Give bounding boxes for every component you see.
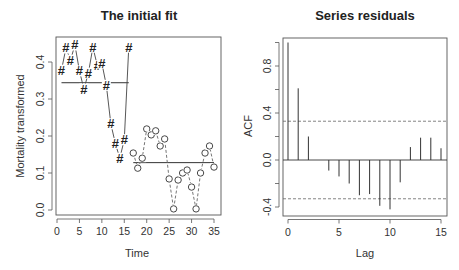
panel-series-residuals: Series residuals 051015 -0.40.00.40.8 La…: [242, 8, 447, 259]
x-axis-right: 051015: [285, 220, 447, 238]
x-tick-label: 5: [336, 226, 342, 238]
data-point-hash: #: [89, 40, 97, 55]
y-tick-label: 0.4: [261, 106, 273, 121]
data-point-hash: #: [76, 63, 84, 78]
y-tick-label: 0.0: [34, 203, 46, 218]
series-line: [133, 129, 214, 209]
data-point-hash: #: [67, 53, 75, 68]
data-point-hash: #: [98, 56, 106, 71]
y-axis-left: 0.00.10.20.30.4: [34, 55, 52, 218]
y-tick-label: 0.0: [261, 153, 273, 168]
x-tick-label: 20: [141, 225, 153, 237]
y-tick-label: 0.2: [34, 129, 46, 144]
chart-title-right: Series residuals: [315, 8, 415, 23]
data-point-hash: #: [116, 151, 124, 166]
y-tick-label: 0.4: [34, 55, 46, 70]
data-point-hash: #: [125, 40, 133, 55]
figure: The initial fit 05101520253035 0.00.10.2…: [0, 0, 459, 270]
data-point-hash: #: [80, 82, 88, 97]
x-tick-label: 25: [163, 225, 175, 237]
data-series: ################: [57, 37, 218, 212]
y-tick-label: 0.8: [261, 59, 273, 74]
chart-title-left: The initial fit: [101, 8, 178, 23]
data-point-hash: #: [107, 116, 115, 131]
x-tick-label: 15: [118, 225, 130, 237]
data-point-hash: #: [58, 63, 66, 78]
x-axis-left: 05101520253035: [54, 219, 220, 237]
data-point-hash: #: [71, 37, 79, 52]
x-axis-label-right: Lag: [356, 247, 374, 259]
x-tick-label: 0: [285, 226, 291, 238]
y-axis-label-left: Mortality transformed: [14, 74, 26, 177]
x-tick-label: 10: [96, 225, 108, 237]
acf-spikes: [288, 43, 441, 210]
y-tick-label: -0.4: [261, 198, 273, 216]
data-point-hash: #: [121, 132, 129, 147]
y-tick-label: 0.1: [34, 166, 46, 181]
x-tick-label: 10: [384, 226, 396, 238]
data-point-hash: #: [103, 78, 111, 93]
panel-initial-fit: The initial fit 05101520253035 0.00.10.2…: [14, 8, 221, 259]
x-tick-label: 35: [208, 225, 220, 237]
y-tick-label: 0.3: [34, 92, 46, 107]
x-tick-label: 30: [186, 225, 198, 237]
plot-frame-right: [283, 38, 447, 216]
confidence-bounds: [283, 121, 447, 199]
x-tick-label: 15: [435, 226, 447, 238]
x-tick-label: 0: [54, 225, 60, 237]
x-tick-label: 5: [77, 225, 83, 237]
x-axis-label-left: Time: [125, 247, 149, 259]
y-axis-label-right: ACF: [242, 115, 254, 137]
y-axis-right: -0.40.00.40.8: [261, 43, 279, 217]
data-point-hash: #: [85, 66, 93, 81]
data-point-hash: #: [112, 136, 120, 151]
